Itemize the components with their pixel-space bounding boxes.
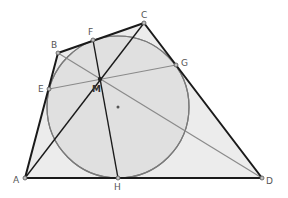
label-h: H — [114, 182, 121, 192]
point-b — [56, 51, 60, 55]
point-a — [23, 176, 27, 180]
point-h — [116, 176, 120, 180]
label-f: F — [88, 27, 93, 37]
point-f — [91, 38, 95, 42]
label-m: M — [92, 84, 101, 94]
point-d — [260, 176, 264, 180]
point-g — [174, 63, 178, 67]
label-e: E — [38, 84, 44, 94]
point-e — [47, 87, 51, 91]
label-a: A — [13, 175, 20, 185]
circle-center-point — [117, 106, 120, 109]
geometry-diagram: ABCDEFGHM — [0, 0, 288, 198]
label-g: G — [181, 58, 188, 68]
label-d: D — [266, 176, 273, 186]
label-b: B — [51, 40, 57, 50]
point-m — [98, 77, 102, 81]
label-c: C — [141, 10, 147, 20]
point-c — [142, 21, 146, 25]
